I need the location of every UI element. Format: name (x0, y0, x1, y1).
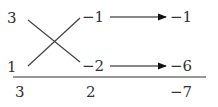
left-bottom-value: 1 (7, 60, 17, 75)
cross-line-up (28, 18, 80, 66)
product-top: −1 (170, 10, 192, 25)
right-bottom-value: −2 (82, 59, 104, 74)
cross-line-down (28, 20, 80, 62)
sum-left: 3 (15, 85, 25, 100)
left-top-value: 3 (7, 11, 17, 26)
product-bottom: −6 (170, 59, 192, 74)
sum-middle: 2 (86, 85, 96, 100)
sum-right: −7 (170, 85, 192, 100)
right-top-value: −1 (82, 10, 104, 25)
